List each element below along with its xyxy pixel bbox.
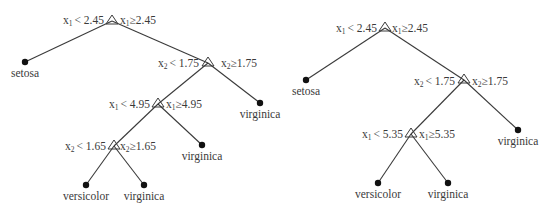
leaf-label: setosa (11, 67, 39, 79)
split-label-left: x1< 5.35 (362, 128, 403, 142)
leaf-node-dot-icon (515, 127, 521, 133)
split-label-right: x2≥1.65 (120, 140, 156, 154)
split-label-left: x1< 2.45 (63, 14, 104, 28)
split-node-triangle-icon (152, 98, 164, 107)
leaf-node-dot-icon (22, 59, 28, 65)
split-label-right: x1≥4.95 (166, 98, 202, 112)
edge (378, 134, 411, 183)
leaf-node-dot-icon (303, 77, 309, 83)
leaf-label: virginica (182, 150, 223, 163)
split-label-right: x1≥2.45 (392, 22, 428, 36)
split-label-left: x2< 1.75 (414, 75, 455, 89)
split-node-triangle-icon (458, 74, 470, 83)
leaf-node-dot-icon (83, 182, 89, 188)
leaf-label: virginica (498, 135, 539, 148)
split-label-right: x1≥2.45 (120, 14, 156, 28)
leaf-label: virginica (428, 188, 469, 201)
decision-tree-diagram: x1< 2.45 x1≥2.45 x2< 1.75 x2≥1.75 x1< 4.… (0, 0, 551, 210)
leaf-node-dot-icon (257, 100, 263, 106)
leaf-label: setosa (292, 85, 320, 97)
split-label-right: x2≥1.75 (472, 75, 508, 89)
split-label-left: x2< 1.65 (65, 140, 106, 154)
leaf-label: versicolor (355, 188, 401, 200)
edge (464, 80, 518, 130)
split-label-left: x1< 2.45 (336, 22, 377, 36)
split-label-right: x2≥1.75 (221, 57, 257, 71)
leaf-node-dot-icon (141, 182, 147, 188)
edge (158, 104, 202, 145)
leaf-label: versicolor (63, 190, 109, 202)
split-label-right: x1≥5.35 (419, 128, 455, 142)
right-tree: x1< 2.45 x1≥2.45 x2< 1.75 x2≥1.75 x1< 5.… (292, 22, 538, 201)
split-label-left: x2< 1.75 (158, 57, 199, 71)
leaf-node-dot-icon (199, 142, 205, 148)
leaf-node-dot-icon (445, 180, 451, 186)
leaf-label: virginica (240, 108, 281, 121)
split-label-left: x1< 4.95 (109, 98, 150, 112)
left-tree: x1< 2.45 x1≥2.45 x2< 1.75 x2≥1.75 x1< 4.… (11, 14, 280, 203)
edge (208, 63, 260, 103)
edge (411, 134, 448, 183)
split-node-triangle-icon (379, 22, 391, 31)
leaf-label: virginica (124, 190, 165, 203)
edge (306, 28, 385, 80)
leaf-node-dot-icon (375, 180, 381, 186)
